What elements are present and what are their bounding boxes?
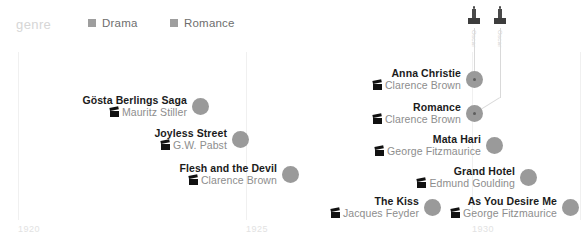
award-connector-line <box>500 28 501 98</box>
film-label-group: Grand HotelEdmund Goulding <box>417 166 515 190</box>
timeline-plot: 192019251930OscarOscarGösta Berlings Sag… <box>0 0 588 245</box>
oscar-statuette-glyph <box>466 6 482 28</box>
film-director: Clarence Brown <box>385 80 461 91</box>
film-director-row: Clarence Brown <box>373 114 461 125</box>
film-director: Edmund Goulding <box>429 178 515 189</box>
film-marker[interactable]: RomanceClarence Brown <box>0 102 483 126</box>
film-director-row: Edmund Goulding <box>417 178 515 189</box>
gridline <box>580 52 581 220</box>
film-label-group: Mata HariGeorge Fitzmaurice <box>375 134 481 158</box>
film-marker[interactable]: Anna ChristieClarence Brown <box>0 68 483 92</box>
film-label-group: RomanceClarence Brown <box>373 102 461 126</box>
film-label-group: Anna ChristieClarence Brown <box>373 68 461 92</box>
film-slate-icon <box>375 147 384 156</box>
film-title: As You Desire Me <box>451 196 557 207</box>
axis-tick-label: 1920 <box>18 224 40 234</box>
axis-tick-label: 1930 <box>472 224 494 234</box>
film-slate-icon <box>417 179 426 188</box>
film-slate-icon <box>451 209 460 218</box>
film-title: Grand Hotel <box>417 166 515 177</box>
film-title: Romance <box>373 102 461 113</box>
film-data-point[interactable] <box>466 105 483 122</box>
film-marker[interactable]: Grand HotelEdmund Goulding <box>0 166 537 190</box>
film-director-row: George Fitzmaurice <box>375 146 481 157</box>
film-data-point[interactable] <box>486 137 503 154</box>
film-data-point[interactable] <box>466 71 483 88</box>
axis-tick-label: 1925 <box>246 224 268 234</box>
film-director: George Fitzmaurice <box>463 208 557 219</box>
film-director: George Fitzmaurice <box>387 146 481 157</box>
film-slate-icon <box>373 115 382 124</box>
film-director-row: Clarence Brown <box>373 80 461 91</box>
film-data-point[interactable] <box>520 169 537 186</box>
film-label-group: As You Desire MeGeorge Fitzmaurice <box>451 196 557 220</box>
film-director: Clarence Brown <box>385 114 461 125</box>
film-data-point[interactable] <box>562 199 579 216</box>
film-marker[interactable]: Mata HariGeorge Fitzmaurice <box>0 134 503 158</box>
film-title: Mata Hari <box>375 134 481 145</box>
film-marker[interactable]: As You Desire MeGeorge Fitzmaurice <box>0 196 579 220</box>
oscar-statuette-glyph <box>492 6 508 28</box>
film-slate-icon <box>373 81 382 90</box>
film-director-row: George Fitzmaurice <box>451 208 557 219</box>
film-title: Anna Christie <box>373 68 461 79</box>
